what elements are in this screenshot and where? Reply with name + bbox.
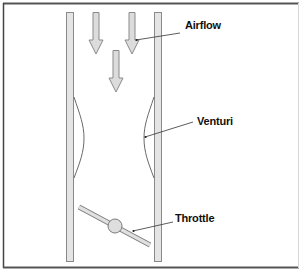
- throttle-leader-line: [133, 222, 173, 231]
- right-pipe-wall: [155, 13, 162, 262]
- venturi-left-curve: [74, 97, 84, 178]
- airflow-arrow-icon: [125, 13, 139, 55]
- throttle-label: Throttle: [175, 212, 214, 224]
- airflow-arrow-icon: [109, 51, 123, 93]
- throttle-plate: [79, 207, 150, 245]
- throttle-shaft-icon: [108, 219, 122, 233]
- airflow-label: Airflow: [185, 19, 222, 31]
- venturi-label: Venturi: [197, 115, 233, 127]
- left-pipe-wall: [67, 13, 74, 262]
- carburetor-diagram: Airflow Venturi Throttle: [0, 0, 300, 271]
- leader-lines: [132, 33, 193, 232]
- airflow-arrow-icon: [89, 13, 103, 55]
- venturi-leader-line: [145, 122, 193, 137]
